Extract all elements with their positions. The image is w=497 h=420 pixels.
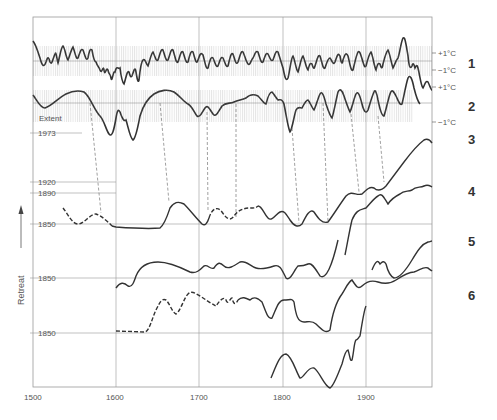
x-axis: 1500 1600 1700 1800 1900 (24, 393, 375, 402)
x-tick-1700: 1700 (190, 393, 208, 402)
x-tick-1900: 1900 (357, 393, 375, 402)
curve-number-5: 5 (468, 234, 475, 249)
temp-label-plus1-curve1: +1°C (438, 49, 456, 58)
curve-number-4: 4 (468, 184, 476, 199)
x-tick-1600: 1600 (106, 393, 124, 402)
glacier-temperature-chart: +1°C −1°C +1°C −1°C 1 2 3 4 5 6 Extent 1… (0, 0, 497, 420)
curve-1-temperature (33, 38, 432, 90)
curve-number-2: 2 (468, 99, 475, 114)
curve-4-glacier (345, 185, 432, 255)
curve3-ref-1850: 1850 (38, 220, 56, 229)
curve-number-1: 1 (468, 56, 475, 71)
temp-label-minus1-curve1: −1°C (438, 66, 456, 75)
curve-number-3: 3 (468, 132, 475, 147)
extent-axis: Extent 1973 1920 1890 1850 1850 1850 (38, 114, 62, 338)
extent-tick-1973: 1973 (38, 129, 56, 138)
extent-label: Extent (39, 114, 62, 123)
temp-label-plus1-curve2: +1°C (438, 83, 456, 92)
curve-6-glacier (116, 267, 432, 332)
temperature-scale: +1°C −1°C +1°C −1°C (432, 49, 456, 127)
curve5-ref-1850: 1850 (38, 274, 56, 283)
x-tick-1500: 1500 (24, 393, 42, 402)
extent-tick-1890: 1890 (38, 189, 56, 198)
retreat-axis: Retreat (16, 205, 26, 305)
curve6-ref-1850: 1850 (38, 329, 56, 338)
x-tick-1800: 1800 (273, 393, 291, 402)
extent-tick-1920: 1920 (38, 178, 56, 187)
temp-label-minus1-curve2: −1°C (438, 118, 456, 127)
curve-number-6: 6 (468, 288, 475, 303)
curve-5-glacier (116, 240, 432, 288)
curve-3-glacier (63, 139, 432, 228)
retreat-label: Retreat (16, 275, 26, 305)
up-arrow-icon (19, 205, 24, 214)
curve-bottom-glacier (271, 306, 366, 388)
curve-numbers: 1 2 3 4 5 6 (468, 56, 476, 303)
curve-2-temperature (33, 76, 420, 140)
